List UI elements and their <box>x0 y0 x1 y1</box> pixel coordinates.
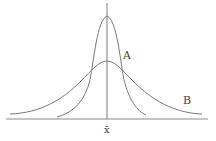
curve-b <box>10 61 202 114</box>
curve-a <box>57 16 146 117</box>
mean-label: x̄ <box>104 124 110 135</box>
distribution-diagram: A B x̄ <box>0 0 216 141</box>
label-b: B <box>183 94 191 107</box>
label-a: A <box>122 49 132 62</box>
